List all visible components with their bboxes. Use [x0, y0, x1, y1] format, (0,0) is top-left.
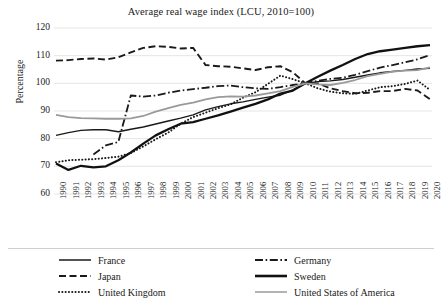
legend-item-germany[interactable]: Germany	[254, 255, 436, 266]
chart-container: Average real wage index (LCU, 2010=100) …	[0, 0, 442, 308]
x-axis-tick-label: 2013	[346, 182, 355, 199]
series-line-japan	[56, 46, 430, 99]
y-axis-tick-label: 60	[16, 189, 50, 199]
series-line-france	[56, 68, 430, 135]
legend-divider	[8, 248, 434, 249]
x-axis-tick-label: 2018	[408, 182, 417, 199]
x-axis-tick-label: 2003	[221, 182, 230, 199]
x-axis-tick-label: 2001	[197, 182, 206, 199]
y-axis-tick-label: 90	[16, 106, 50, 116]
x-axis-tick-label: 2015	[371, 182, 380, 199]
x-axis-tick-label: 2020	[433, 182, 442, 199]
x-axis-tick-label: 2008	[284, 182, 293, 199]
legend-label: Japan	[98, 271, 121, 282]
series-line-germany	[93, 55, 430, 154]
x-axis-tick-label: 1998	[159, 182, 168, 199]
x-axis-tick-label: 2007	[271, 182, 280, 199]
x-axis-tick-label: 1992	[84, 182, 93, 199]
x-axis-tick-label: 2006	[259, 182, 268, 199]
x-axis-tick-label: 1997	[147, 182, 156, 199]
x-axis-tick-label: 1991	[72, 182, 81, 199]
legend-swatch-icon	[58, 287, 92, 297]
legend-label: Germany	[294, 255, 331, 266]
legend-swatch-icon	[58, 271, 92, 281]
legend-swatch-icon	[254, 255, 288, 265]
x-axis-tick-label: 2009	[296, 182, 305, 199]
legend-label: United Kingdom	[98, 287, 166, 298]
series-lines	[56, 45, 430, 170]
legend-item-united-kingdom[interactable]: United Kingdom	[58, 287, 254, 298]
y-axis-tick-label: 70	[16, 161, 50, 171]
legend-label: Sweden	[294, 271, 326, 282]
y-axis-tick-label: 100	[16, 78, 50, 88]
x-axis-tick-label: 1993	[97, 182, 106, 199]
x-axis-tick-label: 1994	[109, 182, 118, 199]
legend-item-sweden[interactable]: Sweden	[254, 271, 436, 282]
legend-swatch-icon	[254, 271, 288, 281]
x-axis-tick-label: 2011	[321, 182, 330, 199]
legend-swatch-icon	[254, 287, 288, 297]
x-axis-tick-label: 2012	[334, 182, 343, 199]
y-axis-tick-label: 110	[16, 51, 50, 61]
legend-item-japan[interactable]: Japan	[58, 271, 254, 282]
legend-item-france[interactable]: France	[58, 255, 254, 266]
y-axis-tick-label: 80	[16, 134, 50, 144]
legend-swatch-icon	[58, 255, 92, 265]
x-axis-tick-label: 2005	[246, 182, 255, 199]
x-axis-tick-label: 2019	[421, 182, 430, 199]
x-axis-tick-label: 2017	[396, 182, 405, 199]
legend-label: France	[98, 255, 125, 266]
series-line-sweden	[56, 45, 430, 170]
x-axis-tick-label: 1995	[122, 182, 131, 199]
x-axis-tick-label: 2014	[359, 182, 368, 199]
y-axis-tick-label: 120	[16, 23, 50, 33]
x-axis-tick-label: 2016	[384, 182, 393, 199]
x-axis-tick-label: 2000	[184, 182, 193, 199]
chart-legend: FranceGermanyJapanSwedenUnited KingdomUn…	[58, 252, 436, 302]
legend-label: United States of America	[294, 287, 395, 298]
x-axis-tick-label: 1990	[59, 182, 68, 199]
x-axis-tick-label: 2010	[309, 182, 318, 199]
x-axis-tick-label: 1996	[134, 182, 143, 199]
x-axis-tick-label: 2002	[209, 182, 218, 199]
x-axis-tick-label: 1999	[172, 182, 181, 199]
x-axis-tick-label: 2004	[234, 182, 243, 199]
legend-item-united-states-of-america[interactable]: United States of America	[254, 287, 436, 298]
